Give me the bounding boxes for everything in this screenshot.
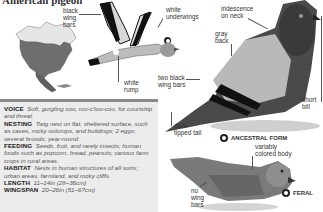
feral-form-label: FERAL [293,190,313,196]
info-voice: VOICE Soft, gurgling coo, roo-c'too-coo,… [4,105,154,120]
label-white-rump: white rump [124,79,139,93]
map-marker-icon [282,189,290,197]
label-black-wing-bars: black wing bars [63,7,78,28]
feral-form-tag: FERAL [282,189,313,197]
north-america-map-icon [6,16,86,96]
info-key: NESTING [4,120,32,127]
info-habitat: HABITAT Nests in human structures of all… [4,164,154,179]
ancestral-form-label: ANCESTRAL FORM [231,135,287,141]
info-key: HABITAT [4,164,31,171]
leader-line [171,112,172,126]
info-value: 11–14in (28–36cm) [34,179,87,186]
species-info-box: VOICE Soft, gurgling coo, roo-c'too-coo,… [0,99,158,212]
label-two-black-wing-bars: two black wing bars [158,74,185,88]
label-iridescence-on-neck: iridescence on neck [221,5,253,19]
info-feeding: FEEDING Seeds, fruit, and rarely insects… [4,142,154,164]
ancestral-form-tag: ANCESTRAL FORM [220,134,287,142]
info-length: LENGTH 11–14in (28–36cm) [4,179,154,186]
label-dark-tipped-tail: dark- tipped tail [174,122,201,136]
map-marker-icon [220,134,228,142]
label-short-bill: short bill [302,96,316,110]
leader-line [79,14,101,15]
feral-pigeon-illustration [168,155,298,212]
label-no-wing-bars: no wing bars [191,187,204,208]
info-key: VOICE [4,105,24,112]
leader-line [321,16,322,102]
flying-pigeon-illustration [86,0,166,70]
range-map [6,16,86,96]
page-title: American pigeon [2,0,82,6]
leader-line [186,79,200,80]
info-value: Soft, gurgling coo, roo-c'too-coo, for c… [4,105,152,119]
label-gray-back: gray back [215,30,229,44]
info-key: LENGTH [4,179,30,186]
info-nesting: NESTING Twig nest on flat, sheltered sur… [4,120,154,142]
label-variably-colored-body: variably colored body [255,143,292,157]
info-value: 20–26in (51–67cm) [42,186,95,193]
info-key: FEEDING [4,142,32,149]
info-wingspan: WINGSPAN 20–26in (51–67cm) [4,186,154,193]
leader-line [118,56,119,82]
leader-line [252,156,253,170]
ancestral-pigeon-illustration [165,0,323,135]
info-key: WINGSPAN [4,186,38,193]
leader-line [231,44,232,56]
